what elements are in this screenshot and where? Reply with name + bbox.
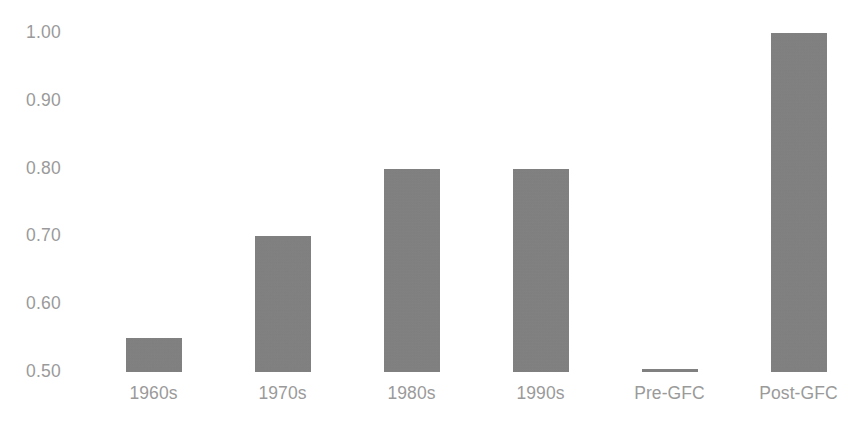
x-axis-category-label: 1970s bbox=[218, 385, 347, 403]
x-axis-category-label: Pre-GFC bbox=[605, 385, 734, 403]
bar-group: Pre-GFC bbox=[605, 0, 734, 430]
bar-group: 1970s bbox=[218, 0, 347, 430]
bar[interactable] bbox=[384, 169, 440, 372]
y-axis: 0.500.600.700.800.901.00 bbox=[0, 0, 82, 430]
y-axis-tick-label: 1.00 bbox=[2, 24, 78, 42]
bar[interactable] bbox=[255, 236, 311, 372]
bar[interactable] bbox=[126, 338, 182, 372]
x-axis-category-label: 1980s bbox=[347, 385, 476, 403]
bar[interactable] bbox=[642, 369, 698, 372]
y-axis-tick-label: 0.80 bbox=[2, 160, 78, 178]
plot-area: 1960s1970s1980s1990sPre-GFCPost-GFC bbox=[82, 0, 821, 430]
y-axis-tick-label: 0.90 bbox=[2, 92, 78, 110]
bar-group: 1960s bbox=[89, 0, 218, 430]
bar-group: 1980s bbox=[347, 0, 476, 430]
bar[interactable] bbox=[771, 33, 827, 372]
bar[interactable] bbox=[513, 169, 569, 372]
y-axis-tick-label: 0.50 bbox=[2, 363, 78, 381]
y-axis-tick-label: 0.60 bbox=[2, 295, 78, 313]
y-axis-tick-label: 0.70 bbox=[2, 228, 78, 246]
bar-group: Post-GFC bbox=[734, 0, 842, 430]
x-axis-category-label: Post-GFC bbox=[734, 385, 842, 403]
x-axis-category-label: 1960s bbox=[89, 385, 218, 403]
bar-group: 1990s bbox=[476, 0, 605, 430]
x-axis-category-label: 1990s bbox=[476, 385, 605, 403]
